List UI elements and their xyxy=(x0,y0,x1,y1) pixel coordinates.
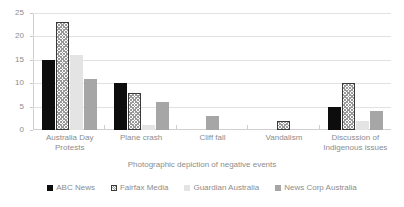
x-category-label: Vandalism xyxy=(248,132,319,160)
bar[interactable] xyxy=(356,121,369,130)
y-tick-label: 15 xyxy=(15,56,24,64)
bar[interactable] xyxy=(114,83,127,130)
legend-swatch-icon xyxy=(111,185,117,191)
y-tick-label: 5 xyxy=(20,103,24,111)
y-tick-label: 25 xyxy=(15,9,24,17)
y-tick-label: 0 xyxy=(20,126,24,134)
x-axis-title: Photographic depiction of negative event… xyxy=(0,160,404,170)
bar[interactable] xyxy=(42,60,55,130)
legend-item[interactable]: Fairfax Media xyxy=(111,183,168,192)
bar[interactable] xyxy=(128,93,141,130)
plot-area xyxy=(33,13,391,130)
bar-group xyxy=(177,13,248,130)
legend-item[interactable]: ABC News xyxy=(47,183,95,192)
x-axis-category-labels: Australia Day ProtestsPlane crashCliff f… xyxy=(34,132,391,160)
y-tick-mark xyxy=(30,36,33,37)
bar[interactable] xyxy=(370,111,383,130)
legend-label: Fairfax Media xyxy=(120,183,168,192)
legend-swatch-icon xyxy=(47,185,53,191)
chart-legend: ABC NewsFairfax MediaGuardian AustraliaN… xyxy=(0,183,404,192)
bar[interactable] xyxy=(156,102,169,130)
bar[interactable] xyxy=(142,125,155,130)
bar[interactable] xyxy=(277,121,290,130)
legend-swatch-icon xyxy=(184,185,190,191)
y-tick-mark xyxy=(30,130,33,131)
legend-label: ABC News xyxy=(56,183,95,192)
bar-group xyxy=(320,13,391,130)
y-tick-label: 20 xyxy=(15,32,24,40)
y-tick-mark xyxy=(30,13,33,14)
y-tick-mark xyxy=(30,83,33,84)
legend-item[interactable]: Guardian Australia xyxy=(184,183,259,192)
y-axis: 0510152025 xyxy=(0,13,29,130)
bar-group xyxy=(248,13,319,130)
bar[interactable] xyxy=(70,55,83,130)
y-tick-mark xyxy=(30,60,33,61)
y-tick-label: 10 xyxy=(15,79,24,87)
legend-item[interactable]: News Corp Australia xyxy=(275,183,356,192)
bar-group xyxy=(34,13,105,130)
y-tick-mark xyxy=(30,107,33,108)
x-category-label: Discussion of Indigenous issues xyxy=(320,132,391,160)
x-category-label: Cliff fall xyxy=(177,132,248,160)
bar[interactable] xyxy=(56,22,69,130)
bar-group xyxy=(105,13,176,130)
legend-label: News Corp Australia xyxy=(284,183,356,192)
legend-label: Guardian Australia xyxy=(193,183,259,192)
bar[interactable] xyxy=(328,107,341,130)
bar[interactable] xyxy=(84,79,97,130)
bar[interactable] xyxy=(342,83,355,130)
x-category-label: Australia Day Protests xyxy=(34,132,105,160)
x-category-label: Plane crash xyxy=(105,132,176,160)
bar-groups xyxy=(34,13,391,130)
legend-swatch-icon xyxy=(275,185,281,191)
bar[interactable] xyxy=(206,116,219,130)
bar-chart: 0510152025 Australia Day ProtestsPlane c… xyxy=(0,0,404,207)
